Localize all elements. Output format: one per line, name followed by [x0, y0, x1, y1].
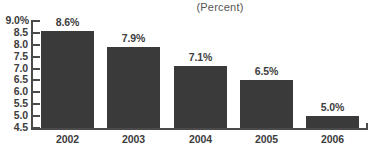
y-axis-tick: [33, 79, 40, 81]
y-axis-tick: [33, 127, 40, 129]
y-axis-line: [31, 20, 33, 130]
y-axis-tick-label: 8.5: [0, 26, 28, 38]
y-axis-tick-label: 6.0: [0, 85, 28, 97]
y-axis-tick-label: 6.5: [0, 73, 28, 85]
bar-value-label: 5.0%: [298, 101, 367, 113]
y-axis-tick-label: 7.0: [0, 62, 28, 74]
y-axis-tick-label: 5.5: [0, 97, 28, 109]
y-axis-tick-label: 7.5: [0, 50, 28, 62]
bar-value-label: 7.9%: [99, 32, 168, 44]
x-axis-category-label: 2006: [298, 133, 367, 145]
bar: [107, 47, 160, 128]
chart-title: (Percent): [140, 1, 300, 13]
bar-chart: (Percent) 9.0%8.58.07.57.06.56.05.55.04.…: [0, 0, 378, 152]
bar: [41, 31, 94, 128]
y-axis-tick: [33, 68, 40, 70]
y-axis-tick-label: 8.0: [0, 38, 28, 50]
bar: [240, 80, 293, 128]
y-axis-tick-label: 5.0: [0, 109, 28, 121]
x-axis-end-tick: [366, 123, 368, 130]
y-axis-tick: [33, 32, 40, 34]
x-axis-line: [31, 128, 368, 130]
x-axis-category-label: 2005: [232, 133, 301, 145]
bar-value-label: 6.5%: [232, 65, 301, 77]
bar: [306, 116, 359, 128]
bar: [174, 66, 227, 128]
y-axis-tick: [33, 56, 40, 58]
bar-value-label: 7.1%: [166, 51, 235, 63]
y-axis-tick: [33, 91, 40, 93]
x-axis-category-label: 2004: [166, 133, 235, 145]
y-axis-tick: [33, 103, 40, 105]
y-axis-tick-label: 4.5: [0, 121, 28, 133]
y-axis-tick-label: 9.0%: [0, 14, 29, 26]
y-axis-tick: [33, 44, 40, 46]
x-axis-category-label: 2002: [33, 133, 102, 145]
x-axis-category-label: 2003: [99, 133, 168, 145]
y-axis-tick: [33, 115, 40, 117]
bar-value-label: 8.6%: [33, 16, 102, 28]
